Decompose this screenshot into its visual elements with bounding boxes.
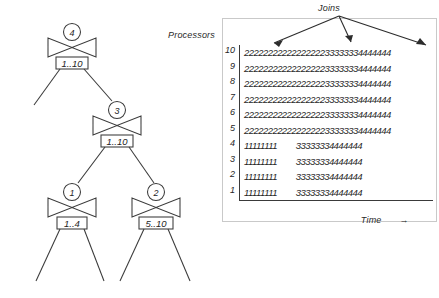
edge-3-left — [78, 147, 105, 183]
schedule-row: 2222222222222222233333334444444 — [244, 76, 436, 92]
join-arrow-right-line — [339, 16, 426, 45]
node-1-label: 1 — [69, 188, 74, 198]
edge-2-leaf-right — [168, 229, 190, 281]
op-run-3: 3333333 — [296, 154, 329, 170]
op-run-4: 4444444 — [358, 61, 391, 77]
op-run-1: 11111111 — [244, 138, 277, 154]
tree-node-2[interactable]: 2 5..10 — [132, 184, 180, 230]
idle-gap — [277, 169, 296, 185]
node-4-label: 4 — [69, 28, 74, 38]
op-run-2: 22222222222222222 — [244, 92, 324, 108]
op-run-1: 11111111 — [244, 185, 277, 201]
op-run-3: 3333333 — [324, 76, 357, 92]
op-run-4: 4444444 — [358, 123, 391, 139]
edge-1-leaf-right — [84, 229, 104, 281]
y-tick-2: 2 — [209, 169, 235, 179]
y-tick-4: 4 — [209, 138, 235, 148]
op-run-3: 3333333 — [324, 123, 357, 139]
op-run-2: 22222222222222222 — [244, 107, 324, 123]
node-2-range-label: 5..10 — [145, 218, 167, 229]
y-axis-ticks: 10987654321 — [205, 45, 235, 200]
schedule-row: 2222222222222222233333334444444 — [244, 123, 436, 139]
op-run-1: 11111111 — [244, 169, 277, 185]
op-run-4: 4444444 — [358, 92, 391, 108]
edge-4-right — [84, 69, 112, 101]
y-axis-line — [239, 45, 240, 200]
schedule-row: 2222222222222222233333334444444 — [244, 61, 436, 77]
y-tick-10: 10 — [209, 45, 235, 55]
join-arrow-left-line — [274, 16, 339, 43]
node-2-label: 2 — [152, 188, 158, 198]
op-run-3: 3333333 — [324, 45, 357, 61]
join-arrow-right-head — [416, 38, 426, 45]
schedule-row: 11111111 33333334444444 — [244, 138, 436, 154]
processors-axis-label: Processors — [168, 30, 215, 40]
op-run-3: 3333333 — [324, 61, 357, 77]
op-run-2: 22222222222222222 — [244, 45, 324, 61]
y-tick-3: 3 — [209, 154, 235, 164]
schedule-row: 2222222222222222233333334444444 — [244, 45, 436, 61]
op-run-2: 22222222222222222 — [244, 61, 324, 77]
schedule-row: 11111111 33333334444444 — [244, 169, 436, 185]
op-run-4: 4444444 — [329, 185, 362, 201]
schedule-row: 11111111 33333334444444 — [244, 154, 436, 170]
idle-gap — [277, 185, 296, 201]
op-run-3: 3333333 — [324, 107, 357, 123]
op-run-4: 4444444 — [358, 45, 391, 61]
tree-node-3[interactable]: 3 1..10 — [93, 102, 141, 148]
figure-canvas: 4 1..10 3 1..10 — [0, 0, 439, 298]
join-arrow-mid-head — [345, 35, 353, 42]
op-run-4: 4444444 — [358, 76, 391, 92]
schedule-row: 11111111 33333334444444 — [244, 185, 436, 201]
node-3-range-label: 1..10 — [106, 136, 128, 147]
y-tick-1: 1 — [209, 185, 235, 195]
time-axis-arrow-icon: → — [400, 215, 409, 225]
y-tick-8: 8 — [209, 76, 235, 86]
join-tree-diagram: 4 1..10 3 1..10 — [0, 0, 220, 298]
op-run-3: 3333333 — [324, 92, 357, 108]
edge-2-leaf-left — [120, 229, 144, 281]
node-1-range-label: 1..4 — [64, 218, 80, 229]
node-3-label: 3 — [114, 106, 119, 116]
tree-node-4[interactable]: 4 1..10 — [48, 24, 96, 70]
op-run-3: 3333333 — [296, 138, 329, 154]
schedule-row: 2222222222222222233333334444444 — [244, 107, 436, 123]
joins-label: Joins — [318, 3, 340, 13]
x-axis-line — [239, 200, 433, 201]
edge-4-left — [34, 69, 60, 105]
schedule-rows: 2222222222222222233333334444444222222222… — [244, 45, 436, 200]
schedule-row: 2222222222222222233333334444444 — [244, 92, 436, 108]
time-axis-text: Time — [361, 215, 382, 225]
edge-1-leaf-left — [36, 229, 60, 281]
node-4-range-label: 1..10 — [61, 58, 83, 69]
idle-gap — [277, 138, 296, 154]
op-run-3: 3333333 — [296, 169, 329, 185]
y-tick-7: 7 — [209, 92, 235, 102]
join-tree-svg: 4 1..10 3 1..10 — [0, 0, 220, 298]
time-axis-label: Time→ — [350, 205, 409, 235]
idle-gap — [277, 154, 296, 170]
op-run-4: 4444444 — [358, 107, 391, 123]
op-run-2: 22222222222222222 — [244, 76, 324, 92]
edge-3-right — [129, 147, 154, 183]
op-run-4: 4444444 — [329, 154, 362, 170]
op-run-4: 4444444 — [329, 169, 362, 185]
op-run-2: 22222222222222222 — [244, 123, 324, 139]
op-run-3: 3333333 — [296, 185, 329, 201]
op-run-1: 11111111 — [244, 154, 277, 170]
y-tick-6: 6 — [209, 107, 235, 117]
y-tick-9: 9 — [209, 61, 235, 71]
y-tick-5: 5 — [209, 123, 235, 133]
op-run-4: 4444444 — [329, 138, 362, 154]
tree-node-1[interactable]: 1 1..4 — [48, 184, 96, 230]
